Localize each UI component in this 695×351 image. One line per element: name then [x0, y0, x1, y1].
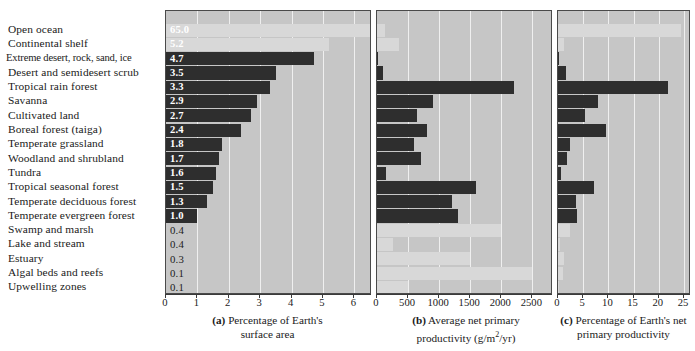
bar — [166, 24, 370, 37]
bar — [377, 24, 385, 37]
biome-label: Extreme desert, rock, sand, ice — [0, 51, 160, 65]
bar-row: 3.5 — [166, 66, 370, 80]
biome-label: Tropical rain forest — [0, 79, 160, 93]
bar-row — [558, 80, 689, 94]
axis-tick-label: 15 — [627, 297, 638, 308]
bar-row — [558, 94, 689, 108]
bar-row — [377, 37, 551, 51]
caption-a: (a) Percentage of Earth's surface area — [160, 314, 375, 341]
bar-value-label: 3.5 — [170, 66, 184, 80]
bar-row — [377, 23, 551, 37]
axis-tick-label: 4 — [288, 297, 293, 308]
bar-row: 4.7 — [166, 52, 370, 66]
bar-value-label: 0.3 — [170, 252, 184, 266]
bar — [377, 152, 421, 165]
biome-label: Cultivated land — [0, 108, 160, 122]
biome-label: Savanna — [0, 93, 160, 107]
bar — [166, 38, 329, 51]
bar — [558, 38, 564, 51]
bar-row — [377, 266, 551, 280]
bar-row: 1.7 — [166, 152, 370, 166]
bar — [377, 281, 408, 293]
bar-value-label: 2.4 — [170, 123, 184, 137]
bar — [377, 38, 399, 51]
caption-a-line2: surface area — [160, 328, 375, 342]
bar — [377, 81, 514, 94]
bar-row — [377, 66, 551, 80]
caption-c: (c) Percentage of Earth's net primary pr… — [552, 314, 695, 341]
axis-tick-label: 5 — [319, 297, 324, 308]
bar — [377, 224, 501, 237]
axis-tick-label: 20 — [652, 297, 663, 308]
caption-c-line1: Percentage of Earth's net — [576, 314, 687, 326]
chart-panel-b — [376, 10, 552, 294]
bar — [558, 267, 563, 280]
biome-label: Temperate evergreen forest — [0, 208, 160, 222]
bar — [377, 124, 427, 137]
axis-tick-label: 1000 — [428, 297, 449, 308]
biome-label: Boreal forest (taiga) — [0, 122, 160, 136]
bar-row — [377, 252, 551, 266]
biome-productivity-figure: Open oceanContinental shelfExtreme deser… — [0, 0, 695, 351]
bar-row — [558, 123, 689, 137]
biome-label: Estuary — [0, 251, 160, 265]
axis-line — [557, 294, 690, 295]
x-axis-b: 05001000150020002500 — [376, 294, 552, 312]
bar — [377, 267, 532, 280]
bar — [377, 52, 378, 65]
bar-value-label: 2.7 — [170, 109, 184, 123]
caption-a-line1: Percentage of Earth's — [228, 314, 323, 326]
bar — [377, 195, 452, 208]
biome-label: Desert and semidesert scrub — [0, 65, 160, 79]
bar-row — [558, 37, 689, 51]
bar-row — [558, 152, 689, 166]
bar-value-label: 1.3 — [170, 195, 184, 209]
biome-label-column: Open oceanContinental shelfExtreme deser… — [0, 22, 160, 294]
bar-row — [377, 109, 551, 123]
bar-row — [558, 252, 689, 266]
biome-label: Tundra — [0, 165, 160, 179]
bar-value-label: 0.1 — [170, 266, 184, 280]
bar-row: 1.6 — [166, 166, 370, 180]
axis-tick-label: 2500 — [521, 297, 542, 308]
bar-row — [377, 152, 551, 166]
axis-tick-label: 2000 — [490, 297, 511, 308]
caption-b-line2-post: /yr) — [499, 331, 515, 343]
bar-row — [377, 166, 551, 180]
bar-row — [377, 137, 551, 151]
biome-label: Woodland and shrubland — [0, 151, 160, 165]
bar-row: 2.4 — [166, 123, 370, 137]
axis-tick-label: 3 — [256, 297, 261, 308]
axis-tick-label: 25 — [678, 297, 689, 308]
axis-tick-label: 0 — [162, 297, 167, 308]
bar — [558, 24, 681, 37]
bar-value-label: 0.4 — [170, 237, 184, 251]
bar-row — [377, 237, 551, 251]
bar-row — [558, 237, 689, 251]
caption-b-tag: (b) — [412, 314, 426, 326]
bar-row — [377, 94, 551, 108]
plot-area-b — [377, 11, 551, 293]
bar-row: 0.4 — [166, 223, 370, 237]
bar-row: 5.2 — [166, 37, 370, 51]
biome-label: Tropical seasonal forest — [0, 179, 160, 193]
bar — [558, 252, 564, 265]
bar-row — [558, 180, 689, 194]
bar-row — [558, 109, 689, 123]
axis-tick-label: 500 — [399, 297, 415, 308]
bar-row: 1.8 — [166, 137, 370, 151]
bar — [558, 167, 561, 180]
bar-row — [558, 223, 689, 237]
biome-label: Temperate grassland — [0, 136, 160, 150]
chart-panel-a: 65.05.24.73.53.32.92.72.41.81.71.61.51.3… — [165, 10, 371, 294]
bar-rows-a: 65.05.24.73.53.32.92.72.41.81.71.61.51.3… — [166, 23, 370, 293]
axis-tick-label: 10 — [602, 297, 613, 308]
bar-row — [377, 123, 551, 137]
bar-row: 2.7 — [166, 109, 370, 123]
bar — [166, 52, 314, 65]
biome-label: Temperate deciduous forest — [0, 194, 160, 208]
bar — [558, 238, 560, 251]
caption-a-tag: (a) — [212, 314, 225, 326]
bar-row — [558, 266, 689, 280]
caption-b-line2-pre: productivity (g/m — [417, 331, 496, 343]
